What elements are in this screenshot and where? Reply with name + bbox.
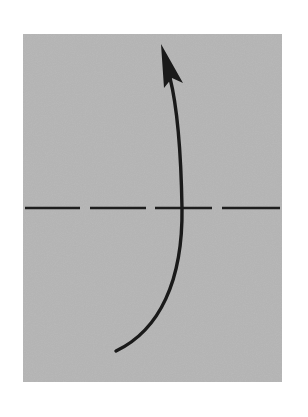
fold-diagram [0, 0, 308, 417]
